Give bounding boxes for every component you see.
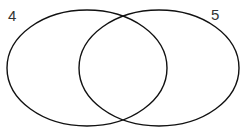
- set-left-label: 4: [8, 8, 16, 23]
- set-left-ellipse: [7, 10, 167, 126]
- venn-diagram: [0, 0, 241, 128]
- set-right-ellipse: [79, 10, 239, 126]
- set-right-label: 5: [211, 7, 219, 22]
